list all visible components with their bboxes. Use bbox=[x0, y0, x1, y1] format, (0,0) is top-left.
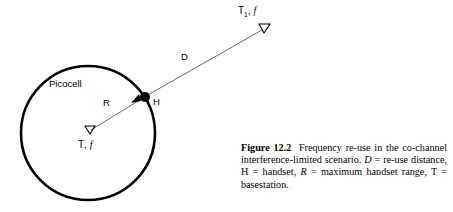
basestation-center-antenna-icon bbox=[85, 126, 95, 134]
picocell-circle bbox=[21, 66, 155, 200]
radius-arrowhead-icon bbox=[131, 94, 141, 103]
figure-caption: Figure 12.2 Frequency re-use in the co-c… bbox=[241, 142, 447, 191]
basestation-center-label: T, f bbox=[78, 140, 92, 153]
caption-variable-d: D bbox=[364, 154, 371, 165]
figure-page: Picocell R D H T1, f T, f Figure 12.2 Fr… bbox=[0, 0, 453, 212]
radius-line bbox=[91, 98, 143, 130]
basestation-center-frequency: f bbox=[90, 139, 93, 150]
figure-number: Figure 12.2 bbox=[241, 142, 291, 153]
basestation-remote-antenna-icon bbox=[259, 24, 270, 33]
basestation-remote-frequency: f bbox=[253, 5, 256, 16]
handset-label: H bbox=[153, 97, 160, 107]
distance-line bbox=[146, 30, 262, 96]
basestation-remote-label: T1, f bbox=[238, 6, 256, 19]
picocell-label: Picocell bbox=[49, 79, 82, 89]
radius-label: R bbox=[103, 98, 110, 108]
handset-dot bbox=[140, 92, 150, 102]
distance-label: D bbox=[181, 52, 188, 62]
